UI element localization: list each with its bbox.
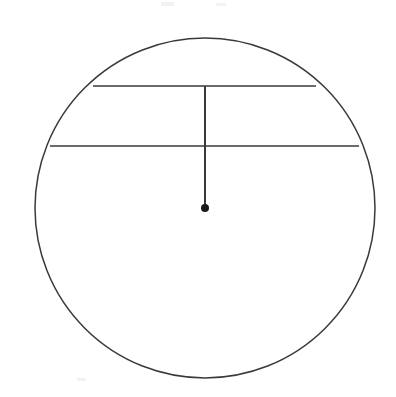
figure-canvas (0, 0, 396, 397)
center-point-dot (201, 204, 209, 212)
geometry-figure-svg (0, 0, 396, 397)
